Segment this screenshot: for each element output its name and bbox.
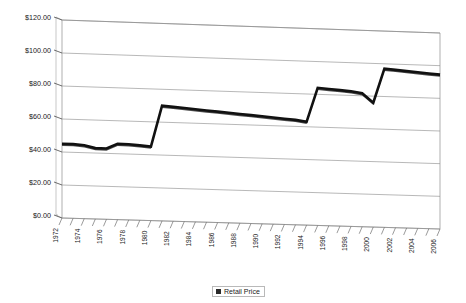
x-axis-tick-label: 1976 [96, 229, 103, 244]
y-axis-tick-label: $100.00 [25, 46, 51, 55]
y-axis-tick-label: $40.00 [29, 145, 51, 154]
x-axis-tick-label: 2000 [363, 237, 370, 252]
x-axis-tick-label: 1992 [274, 234, 281, 249]
x-axis-tick-label: 1974 [74, 228, 81, 243]
x-axis-tick-label: 1998 [341, 236, 348, 251]
x-axis-tick-label: 2006 [430, 239, 437, 254]
y-axis-tick-label: $120.00 [25, 13, 51, 22]
chart-walls [56, 17, 440, 229]
y-axis-tick-label: $20.00 [29, 178, 51, 187]
line-chart: $120.00$100.00$80.00$60.00$40.00$20.00$0… [0, 0, 466, 303]
x-axis-tick-label: 1980 [141, 230, 148, 245]
y-axis-ticks [54, 17, 62, 218]
legend-label-retail-price: Retail Price [224, 288, 260, 295]
x-axis-tick-label: 1984 [185, 232, 192, 247]
y-axis-tick-label: $80.00 [29, 79, 51, 88]
x-axis-tick-label: 1986 [208, 232, 215, 247]
x-axis-tick-label: 1982 [163, 231, 170, 246]
x-axis-tick-label: 1972 [52, 228, 59, 243]
x-axis-tick-label: 1990 [252, 233, 259, 248]
y-axis-tick-label: $0.00 [33, 211, 51, 220]
x-axis-tick-label: 1996 [319, 235, 326, 250]
x-axis-tick-label: 1978 [119, 230, 126, 245]
data-series-retail-price [62, 69, 440, 151]
x-axis-labels: 1972197419761978198019821984198619881990… [52, 228, 437, 254]
legend-swatch-retail-price [216, 289, 221, 294]
chart-container: $120.00$100.00$80.00$60.00$40.00$20.00$0… [0, 0, 466, 303]
y-axis-tick-label: $60.00 [29, 112, 51, 121]
y-axis-labels: $120.00$100.00$80.00$60.00$40.00$20.00$0… [25, 13, 51, 220]
x-axis-tick-label: 1988 [230, 233, 237, 248]
chart-legend: Retail Price [212, 286, 265, 297]
gridlines-group [62, 20, 440, 229]
x-axis-tick-label: 2004 [408, 238, 415, 253]
x-axis-tick-label: 2002 [386, 237, 393, 252]
x-axis-tick-label: 1994 [297, 235, 304, 250]
